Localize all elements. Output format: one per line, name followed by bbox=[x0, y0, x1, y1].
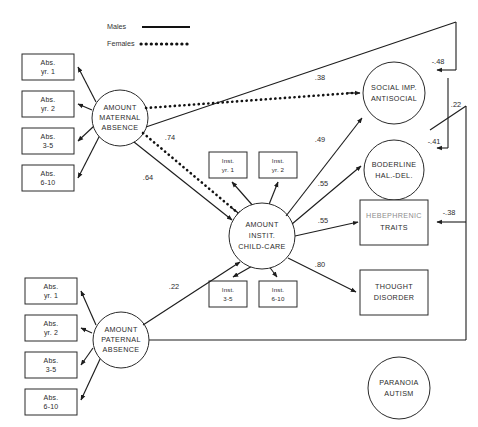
label-borderline-line2: HAL.-DEL. bbox=[375, 171, 413, 180]
label-social-line2: ANTISOCIAL bbox=[371, 94, 417, 103]
coef-paternal-instit: .22 bbox=[169, 282, 179, 291]
label-hebephrenic-line1: HEBEPHRENIC bbox=[366, 211, 422, 220]
label-paternal-line3: ABSENCE bbox=[103, 345, 140, 354]
path-diagram-canvas: Abs. yr. 1 Abs. yr. 2 Abs. 3-5 Abs. 6-10… bbox=[0, 0, 478, 427]
instit-indicator-top-group: Inst. yr. 1 Inst. yr. 2 bbox=[209, 152, 297, 178]
label-paternal-abs-yr1-line2: yr. 1 bbox=[44, 292, 58, 300]
node-borderline: BODERLINE HAL.-DEL. bbox=[364, 140, 424, 200]
coef-maternal-instit-male: .64 bbox=[143, 173, 153, 182]
paternal-indicator-group: Abs. yr. 1 Abs. yr. 2 Abs. 3-5 Abs. 6-10 bbox=[25, 278, 77, 415]
coef-instit-social: .49 bbox=[315, 135, 325, 144]
label-paranoia-line1: PARANOIA bbox=[379, 378, 418, 387]
label-hebephrenic-line2: TRAITS bbox=[380, 223, 408, 232]
label-inst-6-10-line1: Inst. bbox=[272, 286, 285, 293]
label-paternal-abs-6-10-line1: Abs. bbox=[44, 394, 59, 401]
label-maternal-abs-yr2-line1: Abs. bbox=[41, 96, 56, 103]
label-maternal-abs-3-5-line1: Abs. bbox=[41, 133, 56, 140]
label-inst-6-10-line2: 6-10 bbox=[272, 295, 285, 302]
label-inst-yr1-line1: Inst. bbox=[222, 157, 235, 164]
label-paternal-abs-yr2-line2: yr. 2 bbox=[44, 329, 58, 337]
label-inst-yr1-line2: yr. 1 bbox=[222, 166, 235, 173]
label-maternal-abs-6-10-line2: 6-10 bbox=[41, 179, 56, 186]
label-thought-line2: DISORDER bbox=[374, 293, 415, 302]
label-inst-yr2-line1: Inst. bbox=[272, 157, 285, 164]
label-borderline-line1: BODERLINE bbox=[372, 160, 417, 169]
label-paternal-abs-yr1-line1: Abs. bbox=[44, 283, 59, 290]
coef-maternal-social-female: .38 bbox=[315, 73, 325, 82]
label-paranoia-line2: AUTISM bbox=[384, 389, 413, 398]
node-maternal-absence: AMOUNT MATERNAL ABSENCE bbox=[92, 90, 148, 146]
coef-instit-hebephrenic: .55 bbox=[318, 216, 328, 225]
label-maternal-abs-3-5-line2: 3-5 bbox=[43, 142, 54, 149]
node-thought-disorder: THOUGHT DISORDER bbox=[360, 270, 428, 315]
coef-instit-thought: .80 bbox=[315, 260, 325, 269]
label-maternal-abs-yr1-line1: Abs. bbox=[41, 59, 56, 66]
label-instit-line2: INSTIT. bbox=[249, 231, 275, 240]
label-maternal-line2: MATERNAL bbox=[99, 113, 140, 122]
label-thought-line1: THOUGHT bbox=[375, 282, 413, 291]
label-paternal-abs-3-5-line1: Abs. bbox=[44, 357, 59, 364]
label-inst-3-5-line1: Inst. bbox=[222, 286, 235, 293]
coef-feedback-borderline: -.41 bbox=[428, 137, 441, 146]
legend-males-label: Males bbox=[107, 22, 127, 31]
label-paternal-abs-3-5-line2: 3-5 bbox=[46, 366, 57, 373]
label-social-line1: SOCIAL IMP. bbox=[371, 83, 417, 92]
label-inst-3-5-line2: 3-5 bbox=[223, 295, 233, 302]
node-paranoia-autism: PARANOIA AUTISM bbox=[368, 357, 430, 419]
coef-maternal-instit-female: .74 bbox=[165, 133, 175, 142]
label-paternal-abs-6-10-line2: 6-10 bbox=[44, 403, 59, 410]
node-social-antisocial: SOCIAL IMP. ANTISOCIAL bbox=[363, 62, 425, 124]
female-paths bbox=[143, 93, 360, 216]
label-paternal-abs-yr2-line1: Abs. bbox=[44, 320, 59, 327]
label-instit-line3: CHILD-CARE bbox=[238, 242, 285, 251]
legend-females-label: Females bbox=[107, 39, 135, 48]
node-hebephrenic-traits: HEBEPHRENIC TRAITS bbox=[360, 200, 428, 245]
maternal-indicator-group: Abs. yr. 1 Abs. yr. 2 Abs. 3-5 Abs. 6-10 bbox=[22, 54, 74, 191]
instit-indicator-bottom-group: Inst. 3-5 Inst. 6-10 bbox=[209, 281, 297, 307]
label-paternal-line2: PATERNAL bbox=[101, 335, 141, 344]
coef-feedback-hebephrenic: -.38 bbox=[443, 208, 456, 217]
coef-feedback-social: -.48 bbox=[432, 57, 445, 66]
node-paternal-absence: AMOUNT PATERNAL ABSENCE bbox=[93, 312, 149, 368]
label-maternal-line3: ABSENCE bbox=[102, 123, 139, 132]
label-maternal-abs-yr1-line2: yr. 1 bbox=[41, 68, 55, 76]
label-maternal-abs-6-10-line1: Abs. bbox=[41, 170, 56, 177]
label-paternal-line1: AMOUNT bbox=[104, 325, 138, 334]
label-instit-line1: AMOUNT bbox=[245, 220, 279, 229]
node-instit-child-care: AMOUNT INSTIT. CHILD-CARE bbox=[229, 203, 295, 269]
coef-instit-borderline: .55 bbox=[318, 179, 328, 188]
label-maternal-line1: AMOUNT bbox=[103, 103, 137, 112]
coef-feedback-paternal: .22 bbox=[451, 100, 461, 109]
label-inst-yr2-line2: yr. 2 bbox=[272, 166, 285, 173]
model-svg: Abs. yr. 1 Abs. yr. 2 Abs. 3-5 Abs. 6-10… bbox=[0, 0, 478, 427]
label-maternal-abs-yr2-line2: yr. 2 bbox=[41, 105, 55, 113]
legend: Males Females bbox=[107, 22, 190, 48]
